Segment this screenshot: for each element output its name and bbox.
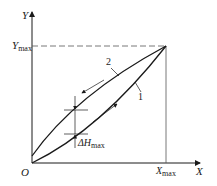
origin-label: O bbox=[21, 167, 29, 178]
curve-2-label: 2 bbox=[106, 57, 111, 67]
leader-2 bbox=[111, 68, 119, 76]
delta-h-label: ΔHmax bbox=[78, 138, 105, 150]
y-max-label: Ymax bbox=[12, 40, 32, 53]
x-axis-label: X bbox=[196, 166, 203, 177]
hysteresis-diagram bbox=[0, 0, 217, 186]
loading-arrow bbox=[93, 104, 117, 122]
y-axis-label: Y bbox=[22, 10, 28, 21]
x-max-label: Xmax bbox=[156, 166, 176, 178]
curve-1-label: 1 bbox=[138, 92, 143, 102]
